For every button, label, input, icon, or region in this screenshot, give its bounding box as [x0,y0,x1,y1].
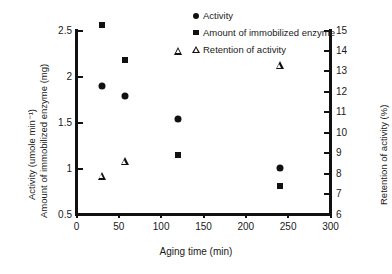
data-point-open-triangle [98,172,106,180]
data-point-filled-circle [175,115,182,122]
x-axis-tick [160,213,162,218]
x-axis-tick-label: 300 [314,222,348,232]
left-axis-tick [78,214,83,216]
x-axis-tick-label: 0 [60,222,94,232]
right-axis-tick [324,132,329,134]
y-axis-title-retention: Retention of activity (%) [378,105,389,205]
x-axis-title: Aging time (min) [0,246,392,257]
x-axis-tick [330,213,332,218]
data-point-filled-circle [121,92,128,99]
data-point-filled-circle [98,82,105,89]
x-axis-tick-label: 50 [102,222,136,232]
left-axis-tick [78,122,83,124]
legend-label-activity: Activity [203,10,233,21]
data-point-open-triangle [174,47,182,55]
x-axis-tick [287,213,289,218]
data-point-filled-square [175,152,181,158]
right-axis-tick-label: 14 [336,46,362,56]
right-axis-tick [324,193,329,195]
right-axis-tick-label: 7 [336,189,362,199]
filled-square-icon [189,30,203,36]
right-axis-tick [324,70,329,72]
x-axis-tick [203,213,205,218]
filled-circle-icon [189,13,203,19]
right-axis-tick-label: 13 [336,66,362,76]
left-axis-tick-label: 2.5 [44,26,72,36]
right-axis-tick [324,152,329,154]
x-axis-tick [118,213,120,218]
right-axis-tick-label: 9 [336,148,362,158]
x-axis-tick-label: 150 [187,222,221,232]
left-axis-tick [78,76,83,78]
legend-item-immobilized-enzyme: Amount of immobilized enzyme [189,25,335,40]
data-point-filled-square [99,22,105,28]
right-axis-tick-label: 11 [336,107,362,117]
right-axis-tick [324,173,329,175]
data-point-filled-circle [276,164,283,171]
right-axis-tick-label: 15 [336,26,362,36]
y-axis-title-activity: Activity (umole min⁻¹) [26,109,37,200]
chart-figure: 0.511.522.567891011121314150501001502002… [0,0,392,274]
open-triangle-icon [189,46,203,53]
x-axis-tick-label: 100 [144,222,178,232]
y-axis-title-enzyme-amount: Amount of immobilized enzyme (mg) [38,64,49,218]
right-axis-tick-label: 12 [336,87,362,97]
left-axis-tick [78,30,83,32]
right-axis-tick-label: 8 [336,169,362,179]
data-point-open-triangle [121,157,129,165]
legend-label-immobilized-enzyme: Amount of immobilized enzyme [203,27,335,38]
legend-label-retention: Retention of activity [203,44,286,55]
legend-item-retention: Retention of activity [189,42,335,57]
right-axis-tick-label: 10 [336,128,362,138]
x-axis-tick-label: 250 [271,222,305,232]
left-axis-tick [78,168,83,170]
data-point-open-triangle [276,61,284,69]
x-axis-tick [245,213,247,218]
chart-legend: Activity Amount of immobilized enzyme Re… [189,8,335,59]
right-axis-tick [324,91,329,93]
right-axis-tick [324,111,329,113]
x-axis-tick-label: 200 [229,222,263,232]
x-axis-tick [76,213,78,218]
right-axis-tick-label: 6 [336,210,362,220]
right-axis-tick [324,214,329,216]
legend-item-activity: Activity [189,8,335,23]
data-point-filled-square [122,57,128,63]
data-point-filled-square [277,183,283,189]
